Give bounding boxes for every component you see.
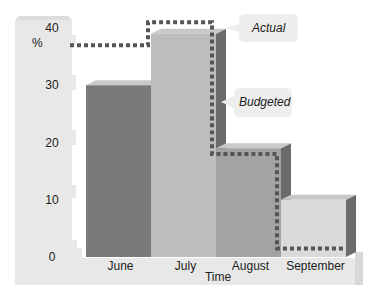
bar-july [151, 29, 226, 257]
x-tick-label: September [286, 259, 345, 273]
y-tick-label: 0 [49, 250, 56, 264]
bar-june [86, 80, 161, 257]
bar-august [216, 143, 291, 257]
svg-text:Budgeted: Budgeted [239, 95, 291, 109]
legend-actual: Actual [226, 14, 298, 42]
x-tick-label: July [175, 259, 196, 273]
svg-text:Actual: Actual [251, 21, 286, 35]
x-axis-label: Time [205, 270, 232, 284]
x-tick-label: August [232, 259, 270, 273]
x-tick-label: June [107, 259, 133, 273]
y-tick-label: 40 [45, 21, 59, 35]
legend-budgeted: Budgeted [221, 88, 292, 117]
y-tick-label: 20 [45, 136, 59, 150]
y-axis-label: % [32, 36, 43, 50]
y-tick-label: 30 [45, 78, 59, 92]
y-tick-label: 10 [45, 193, 59, 207]
bar-chart: 010203040 JuneJulyAugustSeptember % Time… [0, 0, 378, 303]
